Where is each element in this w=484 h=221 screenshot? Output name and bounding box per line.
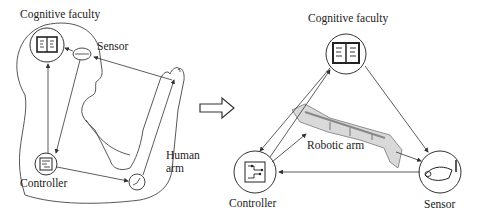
- right-hollow-arrow: [200, 98, 234, 118]
- left-cognitive-label: Cognitive faculty: [20, 9, 100, 21]
- left-controller-label: Controller: [20, 178, 67, 190]
- left-sensor-node: [73, 48, 91, 60]
- right-cognitive-node: [326, 34, 366, 74]
- robotic-arm-label: Robotic arm: [307, 140, 364, 152]
- diagram-canvas: [0, 0, 484, 221]
- robotic-arm-image: [292, 104, 402, 168]
- left-arrows: [48, 48, 174, 181]
- right-sensor-node: [419, 151, 461, 193]
- right-controller-node: [234, 151, 276, 193]
- human-arm-label-line2: arm: [166, 163, 184, 175]
- right-sensor-label: Sensor: [424, 199, 455, 211]
- right-controller-label: Controller: [229, 198, 276, 210]
- left-sensor-label: Sensor: [97, 41, 128, 53]
- right-arrows: [260, 66, 428, 172]
- human-arm-label-line1: Human: [166, 150, 200, 162]
- left-controller-node: [35, 153, 57, 175]
- right-cognitive-label: Cognitive faculty: [308, 13, 388, 25]
- left-cognitive-node: [30, 28, 64, 62]
- left-arm-actuator-node: [129, 174, 145, 190]
